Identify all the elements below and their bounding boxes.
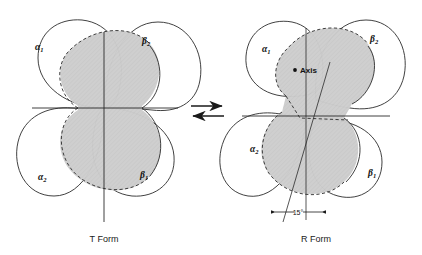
angle-value: 15° — [293, 209, 304, 216]
r-form-group: Axis 15° α1 β2 α2 β1 R Form — [220, 20, 405, 244]
axis-dot-icon — [293, 68, 297, 72]
figure-canvas: α1 β2 α2 β1 T Form — [0, 0, 422, 255]
label-beta2-tform: β2 — [141, 36, 151, 47]
central-overlap-tform — [60, 31, 161, 191]
label-alpha1-tform: α1 — [35, 42, 44, 53]
label-alpha2-tform: α2 — [38, 172, 47, 183]
central-overlap-rform — [261, 28, 374, 195]
r-form-caption: R Form — [301, 234, 331, 244]
t-form-group: α1 β2 α2 β1 T Form — [17, 20, 201, 244]
angle-annotation: 15° — [275, 209, 322, 216]
hemoglobin-t-r-diagram: α1 β2 α2 β1 T Form — [0, 0, 422, 255]
t-form-caption: T Form — [90, 234, 119, 244]
label-alpha2-rform: α2 — [250, 144, 259, 155]
label-alpha1-rform: α1 — [262, 44, 271, 55]
axis-label: Axis — [300, 66, 317, 75]
equilibrium-arrows — [191, 106, 224, 116]
label-beta1-rform: β1 — [367, 168, 376, 179]
label-beta2-rform: β2 — [369, 34, 379, 45]
